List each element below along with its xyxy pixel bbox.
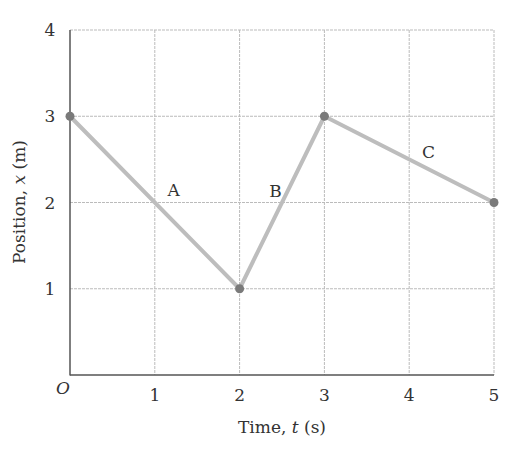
data-point — [66, 112, 75, 121]
data-point — [320, 112, 329, 121]
y-axis-label: Position, x (m) — [9, 140, 29, 264]
y-tick-label: 4 — [45, 20, 56, 40]
y-tick-label: 2 — [45, 193, 56, 213]
y-tick-label: 1 — [45, 279, 56, 299]
y-tick-label: 3 — [45, 106, 56, 126]
tick-labels: 123451234 — [45, 20, 500, 405]
data-point — [490, 198, 499, 207]
x-axis-label: Time, t (s) — [238, 417, 326, 437]
segment-label-c: C — [422, 142, 435, 162]
origin-label: O — [56, 378, 70, 398]
x-tick-label: 2 — [234, 385, 245, 405]
segment-label-a: A — [167, 180, 181, 200]
x-tick-label: 4 — [404, 385, 415, 405]
x-tick-label: 1 — [149, 385, 160, 405]
segment-label-b: B — [269, 181, 282, 201]
x-tick-label: 5 — [489, 385, 500, 405]
data-point — [235, 284, 244, 293]
position-time-chart: 123451234 ABC O Time, t (s) Position, x … — [0, 0, 512, 452]
x-tick-label: 3 — [319, 385, 330, 405]
